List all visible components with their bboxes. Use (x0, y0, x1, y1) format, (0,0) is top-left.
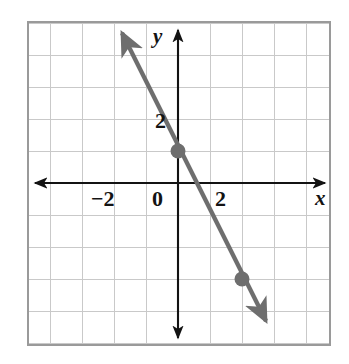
data-point-y-intercept (171, 144, 186, 159)
y-tick-label-2: 2 (155, 110, 166, 132)
graph-canvas (0, 0, 349, 364)
x-axis-label: x (315, 188, 326, 209)
coordinate-plane-figure: y x 2 −2 0 2 (0, 0, 349, 364)
y-axis-label: y (153, 26, 162, 47)
x-tick-label-0: 0 (152, 188, 163, 210)
x-tick-label-neg2: −2 (91, 188, 115, 210)
data-point-second (235, 272, 250, 287)
x-tick-label-2: 2 (215, 188, 226, 210)
